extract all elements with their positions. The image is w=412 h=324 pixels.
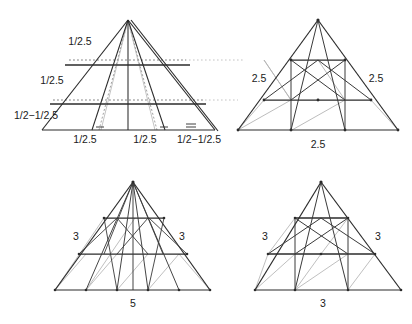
panel-bottom-left: 3 3 5 [54, 180, 212, 309]
label-tl-left-middle: 1/2.5 [40, 74, 64, 86]
label-tl-base-left: 1/2.5 [73, 133, 97, 145]
label-tl-left-lower: 1/2−1/2.5 [14, 109, 58, 121]
label-bl-base: 5 [130, 297, 136, 309]
label-bl-right-side: 3 [179, 230, 185, 242]
panel-top-right: 2.5 2.5 2.5 [237, 18, 400, 150]
interior-lines-br [268, 182, 375, 290]
base-tick-marks-tl [96, 124, 196, 127]
label-br-right-side: 3 [375, 230, 381, 242]
label-tl-base-right: 1/2−1/2.5 [177, 133, 221, 145]
label-tr-right-side: 2.5 [369, 72, 384, 84]
light-helper-lines-tr [238, 60, 398, 130]
label-br-base: 3 [320, 297, 326, 309]
interior-lines-tr [264, 20, 371, 130]
panel-top-left: 1/2.5 1/2.5 1/2−1/2.5 1/2.5 1/2.5 1/2−1/… [14, 20, 221, 145]
panel-bottom-right: 3 3 3 [254, 180, 403, 309]
label-tl-base-center: 1/2.5 [133, 133, 157, 145]
label-bl-left-side: 3 [73, 230, 79, 242]
triangle-diagram-svg: 1/2.5 1/2.5 1/2−1/2.5 1/2.5 1/2.5 1/2−1/… [0, 0, 412, 324]
label-br-left-side: 3 [262, 230, 268, 242]
label-tl-left-upper: 1/2.5 [68, 35, 92, 47]
label-tr-left-side: 2.5 [252, 72, 267, 84]
label-tr-base: 2.5 [311, 138, 326, 150]
figure-canvas: 1/2.5 1/2.5 1/2−1/2.5 1/2.5 1/2.5 1/2−1/… [0, 0, 412, 324]
